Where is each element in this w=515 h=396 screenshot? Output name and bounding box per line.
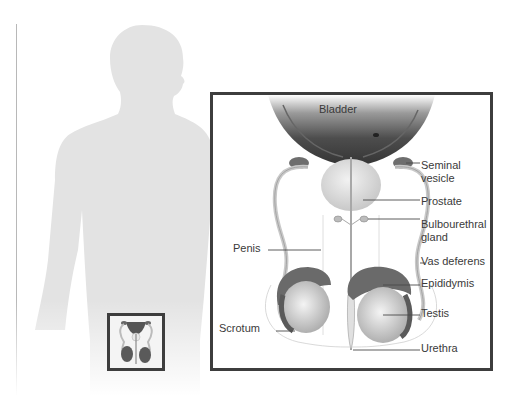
- reproductive-organs-thumbnail-icon: [110, 316, 162, 368]
- label-bulbourethral-line2: gland: [421, 231, 448, 243]
- label-bulbourethral-line1: Bulbourethral: [421, 218, 486, 230]
- label-seminal-vesicle-line1: Seminal: [421, 159, 461, 171]
- label-testis: Testis: [421, 307, 449, 319]
- label-vas-deferens: Vas deferens: [421, 255, 485, 267]
- label-bladder: Bladder: [319, 103, 357, 115]
- label-seminal-vesicle-line2: vesicle: [421, 172, 455, 184]
- label-penis: Penis: [233, 242, 261, 254]
- locator-thumbnail: [107, 313, 165, 371]
- label-prostate: Prostate: [421, 195, 462, 207]
- label-epididymis: Epididymis: [421, 277, 474, 289]
- label-scrotum: Scrotum: [219, 322, 260, 334]
- label-urethra: Urethra: [421, 342, 458, 354]
